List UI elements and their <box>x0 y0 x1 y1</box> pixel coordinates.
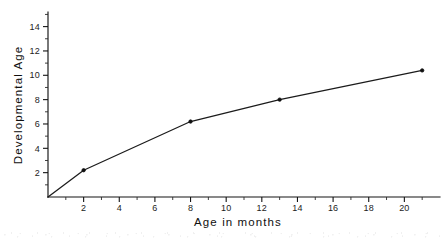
y-tick-label: 4 <box>35 144 40 154</box>
data-point-marker <box>420 69 423 72</box>
x-tick-label: 18 <box>364 203 374 213</box>
axes-group <box>48 12 440 197</box>
x-tick-label: 12 <box>257 203 267 213</box>
y-tick-label: 8 <box>35 95 40 105</box>
x-axis-ticks <box>66 197 422 202</box>
data-series-line <box>48 70 422 197</box>
x-tick-label: 10 <box>221 203 231 213</box>
x-tick-label: 2 <box>81 203 86 213</box>
y-tick-label: 14 <box>30 22 40 32</box>
x-tick-label: 8 <box>188 203 193 213</box>
x-tick-label: 6 <box>152 203 157 213</box>
data-point-markers <box>82 69 424 172</box>
chart-figure: 2468101214 2468101214161820 Developmenta… <box>0 0 448 242</box>
data-point-marker <box>278 98 281 101</box>
data-point-marker <box>189 120 192 123</box>
x-axis-tick-labels: 2468101214161820 <box>81 203 410 213</box>
line-chart: 2468101214 2468101214161820 Developmenta… <box>0 0 448 242</box>
y-axis-ticks <box>43 14 48 184</box>
x-tick-label: 14 <box>292 203 302 213</box>
y-tick-label: 12 <box>30 46 40 56</box>
y-tick-label: 2 <box>35 168 40 178</box>
y-tick-label: 6 <box>35 119 40 129</box>
data-point-marker <box>82 169 85 172</box>
y-tick-label: 10 <box>30 70 40 80</box>
x-tick-label: 4 <box>117 203 122 213</box>
x-tick-label: 20 <box>399 203 409 213</box>
x-tick-label: 16 <box>328 203 338 213</box>
x-axis-title: Age in months <box>194 216 282 228</box>
y-axis-title: Developmental Age <box>12 46 24 164</box>
y-axis-tick-labels: 2468101214 <box>30 22 40 178</box>
